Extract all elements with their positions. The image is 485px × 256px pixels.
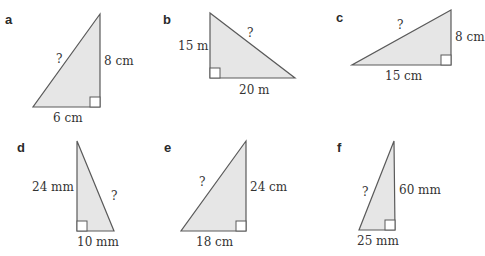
vertical-leg-label: 24 mm: [32, 180, 74, 194]
vertical-leg-label: 15 m: [178, 39, 209, 53]
problem-label: c: [336, 10, 343, 25]
right-triangle: [77, 141, 114, 231]
right-angle-marker: [90, 97, 100, 107]
hypotenuse-label: ?: [111, 189, 117, 203]
problem-d: d ? 24 mm 10 mm: [17, 140, 119, 249]
hypotenuse-label: ?: [56, 52, 62, 66]
horizontal-leg-label: 25 mm: [357, 234, 399, 248]
right-triangles-diagram: a ? 8 cm 6 cm b ? 15 m 20 m c ? 8 cm 15 …: [0, 0, 485, 256]
problem-e: e ? 24 cm 18 cm: [164, 140, 288, 249]
problem-c: c ? 8 cm 15 cm: [336, 10, 485, 83]
right-triangle: [33, 14, 100, 107]
problem-label: e: [164, 140, 171, 155]
problem-label: b: [163, 12, 171, 27]
right-angle-marker: [385, 220, 395, 230]
problem-a: a ? 8 cm 6 cm: [5, 12, 134, 125]
right-angle-marker: [77, 221, 87, 231]
problem-b: b ? 15 m 20 m: [163, 12, 295, 97]
hypotenuse-label: ?: [199, 175, 205, 189]
hypotenuse-label: ?: [247, 26, 253, 40]
problem-label: d: [17, 140, 25, 155]
vertical-leg-label: 24 cm: [250, 180, 288, 194]
vertical-leg-label: 8 cm: [104, 54, 134, 68]
hypotenuse-label: ?: [362, 185, 368, 199]
vertical-leg-label: 8 cm: [455, 30, 485, 44]
horizontal-leg-label: 15 cm: [385, 69, 423, 83]
problem-label: a: [5, 12, 13, 27]
problem-f: f ? 60 mm 25 mm: [337, 140, 441, 248]
right-angle-marker: [236, 221, 246, 231]
problem-label: f: [337, 140, 342, 155]
right-angle-marker: [210, 68, 220, 78]
horizontal-leg-label: 20 m: [239, 83, 270, 97]
horizontal-leg-label: 10 mm: [77, 235, 119, 249]
right-angle-marker: [441, 55, 451, 65]
vertical-leg-label: 60 mm: [399, 183, 441, 197]
right-triangle: [181, 141, 246, 231]
hypotenuse-label: ?: [397, 18, 403, 32]
horizontal-leg-label: 6 cm: [53, 111, 83, 125]
right-triangle: [210, 13, 295, 78]
horizontal-leg-label: 18 cm: [196, 235, 234, 249]
